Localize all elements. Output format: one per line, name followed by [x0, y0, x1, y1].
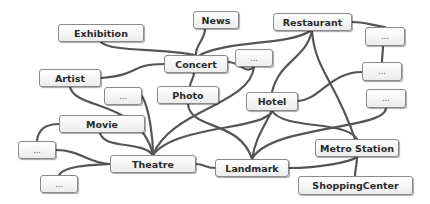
- node-e_l1: ...: [18, 141, 56, 159]
- node-concert: Concert: [164, 55, 228, 73]
- node-landmark: Landmark: [215, 159, 289, 177]
- node-movie: Movie: [59, 115, 145, 133]
- node-e_l2: ...: [40, 175, 78, 193]
- node-metro: Metro Station: [315, 139, 399, 157]
- node-restaurant: Restaurant: [273, 13, 352, 31]
- node-news: News: [193, 11, 239, 29]
- node-e_r3: ...: [366, 89, 406, 108]
- node-artist: Artist: [39, 69, 101, 87]
- node-photo: Photo: [157, 86, 219, 104]
- node-e_lm: ...: [104, 87, 142, 105]
- node-theatre: Theatre: [110, 155, 196, 173]
- node-shopping: ShoppingCenter: [298, 176, 413, 195]
- node-e_r1: ...: [365, 27, 405, 46]
- node-e_topmid: ...: [235, 49, 273, 67]
- node-e_r2: ...: [362, 62, 402, 81]
- node-hotel: Hotel: [246, 92, 298, 111]
- node-exhibition: Exhibition: [58, 24, 144, 42]
